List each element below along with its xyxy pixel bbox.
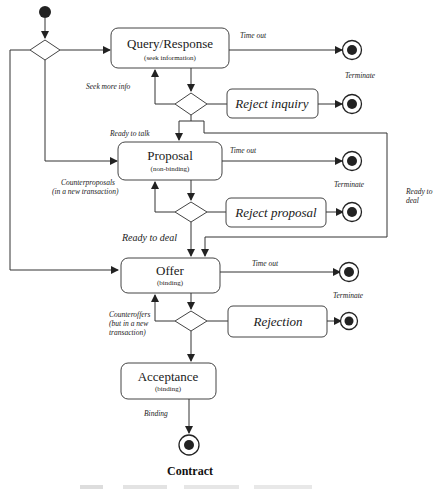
final-node-proposal-timeout	[343, 152, 362, 171]
edge-label-timeout: Time out	[252, 259, 279, 268]
edge-label-ready-to-talk: Ready to talk	[109, 129, 150, 138]
reject-inquiry-node: Reject inquiry	[227, 89, 318, 118]
offer-decision-diamond	[175, 311, 207, 331]
svg-text:(binding): (binding)	[157, 279, 184, 287]
final-node-query-timeout	[343, 41, 362, 60]
contract-label: Contract	[167, 464, 213, 478]
edge-label-counterproposals: Counterproposals	[61, 178, 115, 187]
edge-label-ready-to-deal-side-2: deal	[406, 196, 419, 205]
final-node-reject-proposal	[343, 203, 362, 222]
svg-text:Reject inquiry: Reject inquiry	[234, 96, 309, 111]
svg-text:Rejection: Rejection	[252, 314, 302, 329]
edge-label-seek-more-info: Seek more info	[86, 82, 131, 91]
svg-text:Query/Response: Query/Response	[127, 36, 213, 51]
edge-label-ready-to-deal-side: Ready to	[405, 187, 433, 196]
svg-text:(seek information): (seek information)	[144, 54, 197, 62]
reject-proposal-node: Reject proposal	[226, 198, 326, 227]
final-node-offer-timeout	[340, 263, 359, 282]
edge-label-terminate: Terminate	[334, 180, 365, 189]
offer-node: Offer (binding)	[121, 258, 220, 293]
svg-text:Reject proposal: Reject proposal	[234, 205, 317, 220]
initial-decision-diamond	[30, 40, 60, 60]
svg-text:(binding): (binding)	[155, 385, 182, 393]
initial-node	[39, 6, 51, 18]
edge-label-counteroffers-2: (but in a new	[109, 319, 148, 328]
rejection-node: Rejection	[228, 306, 327, 337]
query-decision-diamond	[175, 93, 207, 115]
svg-text:Proposal: Proposal	[147, 148, 193, 163]
edge-label-binding: Binding	[144, 409, 168, 418]
final-node-reject-inquiry	[343, 95, 362, 114]
edge-label-ready-to-deal: Ready to deal	[121, 232, 177, 243]
proposal-decision-diamond	[175, 202, 207, 222]
final-node-rejection	[341, 313, 358, 330]
svg-text:(non-binding): (non-binding)	[151, 165, 191, 173]
edge-label-counterproposals-2: (in a new transaction)	[52, 187, 119, 196]
cut-off-figure-caption	[80, 485, 370, 489]
edge-label-terminate: Terminate	[333, 291, 364, 300]
edge-label-timeout: Time out	[240, 31, 267, 40]
query-response-node: Query/Response (seek information)	[111, 28, 229, 68]
edge-label-terminate: Terminate	[345, 71, 376, 80]
edge-label-counteroffers: Counteroffers	[109, 310, 150, 319]
activity-diagram: Query/Response (seek information) Time o…	[0, 0, 446, 492]
edge-label-counteroffers-3: transaction)	[109, 328, 146, 337]
acceptance-node: Acceptance (binding)	[121, 363, 216, 399]
svg-text:Offer: Offer	[156, 263, 185, 278]
proposal-node: Proposal (non-binding)	[118, 142, 222, 180]
edge-label-timeout: Time out	[230, 146, 257, 155]
final-node-contract	[179, 435, 199, 455]
svg-text:Acceptance: Acceptance	[138, 369, 199, 384]
